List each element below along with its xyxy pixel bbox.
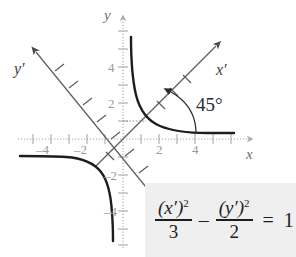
equation-box: (x′)2 3 – (y′)2 2 = 1 xyxy=(145,183,296,257)
fraction-y-prime-squared-over-2: (y′)2 2 xyxy=(216,198,253,241)
angle-arc xyxy=(170,92,196,134)
equals-sign: = xyxy=(263,209,274,232)
angle-label: 45° xyxy=(196,95,223,114)
minus-operator: – xyxy=(199,209,209,232)
equation: (x′)2 3 – (y′)2 2 = 1 xyxy=(153,198,296,241)
y-axis-label: y xyxy=(104,8,111,23)
x-tick-label-neg4: –4 xyxy=(36,143,49,156)
x-axis-label: x xyxy=(246,147,253,162)
y-prime-axis-label: y′ xyxy=(14,61,25,77)
numerator-x-prime-exponent: 2 xyxy=(183,197,189,209)
fraction-denominator-2: 2 xyxy=(229,221,239,242)
x-tick-label-pos4: 4 xyxy=(192,143,199,156)
y-tick-label-neg2: –2 xyxy=(104,169,117,182)
y-tick-label-pos2: 2 xyxy=(108,97,115,110)
fraction-numerator-x-prime: (x′)2 xyxy=(155,198,192,219)
hyperbola-branch-upper-right xyxy=(131,37,234,133)
hyperbola-figure: y x x′ y′ 45° –4 –2 2 4 4 2 –2 –4 (x′)2 … xyxy=(0,0,296,257)
x-tick-label-neg2: –2 xyxy=(74,143,87,156)
x-tick-label-pos2: 2 xyxy=(156,143,163,156)
fraction-numerator-y-prime: (y′)2 xyxy=(216,198,253,219)
numerator-y-prime-exponent: 2 xyxy=(244,197,250,209)
numerator-x-prime-text: (x′) xyxy=(158,197,183,218)
y-axis-ticks xyxy=(118,31,128,245)
numerator-y-prime-text: (y′) xyxy=(219,197,244,218)
equation-rhs: 1 xyxy=(284,209,294,232)
hyperbola-branch-lower-left xyxy=(20,156,113,241)
fraction-denominator-3: 3 xyxy=(169,221,179,242)
y-tick-label-neg4: –4 xyxy=(104,205,117,218)
y-tick-label-pos4: 4 xyxy=(108,61,115,74)
x-prime-axis-label: x′ xyxy=(216,62,227,78)
fraction-x-prime-squared-over-3: (x′)2 3 xyxy=(155,198,192,241)
